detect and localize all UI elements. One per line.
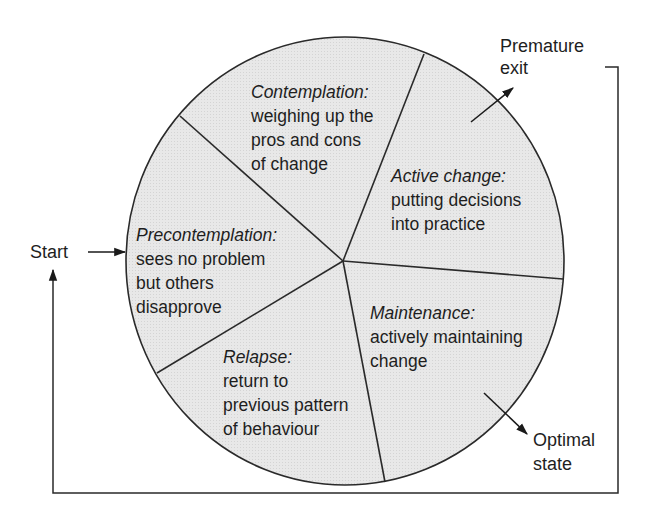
stage-desc-line: of behaviour xyxy=(223,417,349,441)
stage-desc-line: disapprove xyxy=(136,295,277,319)
start-label: Start xyxy=(30,240,68,265)
premature-exit-label: Premature exit xyxy=(500,34,584,81)
stage-desc-line: pros and cons xyxy=(251,128,374,152)
stage-precontemplation: Precontemplation: sees no problem but ot… xyxy=(136,223,277,319)
stage-contemplation: Contemplation: weighing up the pros and … xyxy=(251,80,374,176)
stage-desc-line: putting decisions xyxy=(391,188,521,212)
stage-desc-line: previous pattern xyxy=(223,393,349,417)
stage-desc-line: return to xyxy=(223,369,349,393)
stage-desc-line: sees no problem xyxy=(136,247,277,271)
optimal-state-label: Optimal state xyxy=(533,428,595,477)
stage-title: Active change: xyxy=(391,164,521,188)
stage-desc-line: of change xyxy=(251,152,374,176)
stage-desc-line: into practice xyxy=(391,212,521,236)
premature-exit-line: exit xyxy=(500,56,584,81)
optimal-state-line: state xyxy=(533,452,595,477)
stage-title: Maintenance: xyxy=(370,301,523,325)
stage-desc-line: change xyxy=(370,349,523,373)
stage-desc-line: weighing up the xyxy=(251,104,374,128)
stage-title: Contemplation: xyxy=(251,80,374,104)
stage-desc-line: actively maintaining xyxy=(370,325,523,349)
stage-maintenance: Maintenance: actively maintaining change xyxy=(370,301,523,373)
stage-title: Relapse: xyxy=(223,345,349,369)
optimal-state-line: Optimal xyxy=(533,428,595,453)
stage-desc-line: but others xyxy=(136,271,277,295)
stage-title: Precontemplation: xyxy=(136,223,277,247)
stage-relapse: Relapse: return to previous pattern of b… xyxy=(223,345,349,441)
stage-active-change: Active change: putting decisions into pr… xyxy=(391,164,521,236)
